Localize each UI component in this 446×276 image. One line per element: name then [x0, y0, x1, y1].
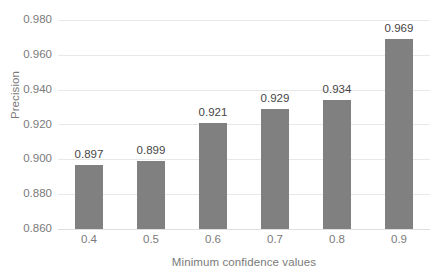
- bar[interactable]: [385, 39, 413, 229]
- x-tick-label: 0.8: [312, 233, 362, 245]
- bar[interactable]: [75, 165, 103, 229]
- bar-data-label: 0.934: [312, 83, 362, 95]
- gridline: [58, 20, 430, 21]
- y-tick-label: 0.960: [8, 48, 52, 60]
- x-tick-label: 0.5: [126, 233, 176, 245]
- x-tick-label: 0.9: [374, 233, 424, 245]
- bar[interactable]: [261, 109, 289, 229]
- x-tick-label: 0.4: [64, 233, 114, 245]
- gridline: [58, 194, 430, 195]
- gridline: [58, 55, 430, 56]
- x-tick-label: 0.7: [250, 233, 300, 245]
- bar[interactable]: [137, 161, 165, 229]
- y-tick-label: 0.920: [8, 118, 52, 130]
- y-tick-label: 0.980: [8, 13, 52, 25]
- bar-chart: Precision 0.9800.9600.9400.9200.9000.880…: [0, 0, 446, 276]
- bar-data-label: 0.969: [374, 22, 424, 34]
- bar-data-label: 0.899: [126, 144, 176, 156]
- gridline: [58, 90, 430, 91]
- bar-data-label: 0.929: [250, 92, 300, 104]
- bar[interactable]: [323, 100, 351, 229]
- bar[interactable]: [199, 123, 227, 229]
- y-tick-label: 0.900: [8, 152, 52, 164]
- y-tick-label: 0.940: [8, 83, 52, 95]
- gridline: [58, 229, 430, 230]
- bar-data-label: 0.897: [64, 148, 114, 160]
- y-axis-tick-labels: 0.9800.9600.9400.9200.9000.8800.860: [8, 0, 52, 276]
- x-axis-tick-labels: 0.40.50.60.70.80.9: [58, 233, 430, 251]
- plot-area: 0.8970.8990.9210.9290.9340.969: [58, 20, 430, 229]
- x-axis-title: Minimum confidence values: [58, 256, 430, 268]
- gridline: [58, 124, 430, 125]
- y-tick-label: 0.860: [8, 222, 52, 234]
- y-tick-label: 0.880: [8, 187, 52, 199]
- bar-data-label: 0.921: [188, 106, 238, 118]
- x-tick-label: 0.6: [188, 233, 238, 245]
